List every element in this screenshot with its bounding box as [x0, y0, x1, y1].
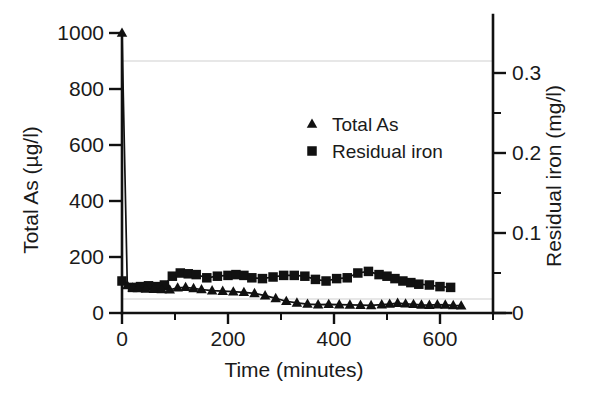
y2-tick-label: 0	[512, 301, 524, 324]
data-point-square	[247, 273, 257, 283]
y-axis-right-ticks	[493, 73, 506, 313]
chart-canvas: 0200400600 02004006008001000 00.10.20.3 …	[0, 0, 589, 399]
y-tick-label: 600	[69, 133, 104, 156]
legend: Total AsResidual iron	[307, 114, 443, 162]
y-axis-right-tick-labels: 00.10.20.3	[512, 61, 541, 324]
data-point-square	[321, 276, 331, 286]
data-point-square	[414, 279, 424, 289]
y-axis-left-tick-labels: 02004006008001000	[57, 21, 104, 324]
y-tick-label: 800	[69, 77, 104, 100]
y2-tick-label: 0.2	[512, 141, 541, 164]
data-point-triangle	[180, 282, 191, 291]
series-total-as	[117, 27, 467, 309]
data-point-triangle	[323, 299, 334, 308]
x-axis-tick-labels: 0200400600	[116, 327, 457, 350]
series-path	[122, 33, 461, 306]
y-axis-right-title: Residual iron (mg/l)	[542, 85, 565, 267]
data-point-square	[290, 271, 300, 281]
y2-tick-label: 0.1	[512, 221, 541, 244]
x-tick-label: 600	[422, 327, 457, 350]
data-point-triangle	[307, 118, 318, 127]
data-point-square	[425, 280, 435, 290]
data-point-square	[435, 282, 445, 292]
legend-label: Total As	[332, 114, 399, 135]
gridlines	[122, 61, 493, 299]
x-axis-ticks	[122, 313, 493, 324]
chart-figure: 0200400600 02004006008001000 00.10.20.3 …	[0, 0, 589, 399]
x-axis-title: Time (minutes)	[224, 358, 363, 381]
y-tick-label: 1000	[57, 21, 104, 44]
data-point-square	[300, 271, 310, 281]
y2-tick-label: 0.3	[512, 61, 541, 84]
y-axis-left-ticks	[109, 33, 122, 313]
y-tick-label: 0	[92, 301, 104, 324]
x-tick-label: 0	[116, 327, 128, 350]
x-tick-label: 200	[210, 327, 245, 350]
data-point-square	[311, 275, 321, 285]
data-point-square	[353, 268, 363, 278]
data-point-square	[213, 271, 223, 281]
data-point-square	[279, 271, 289, 281]
data-point-square	[343, 273, 353, 283]
data-point-square	[307, 146, 317, 156]
data-point-square	[446, 283, 456, 293]
data-point-square	[268, 272, 278, 282]
data-point-square	[191, 270, 201, 280]
y-tick-label: 400	[69, 189, 104, 212]
data-point-square	[202, 273, 212, 283]
legend-label: Residual iron	[332, 141, 443, 162]
y-axis-left-title: Total As (µg/l)	[19, 126, 42, 254]
data-point-square	[258, 274, 268, 284]
data-point-square	[332, 274, 342, 284]
y-tick-label: 200	[69, 245, 104, 268]
x-tick-label: 400	[316, 327, 351, 350]
data-point-square	[364, 267, 374, 277]
